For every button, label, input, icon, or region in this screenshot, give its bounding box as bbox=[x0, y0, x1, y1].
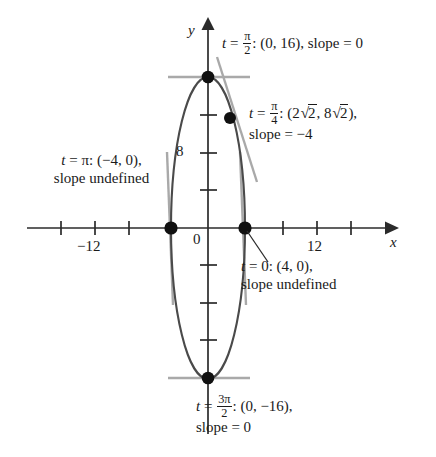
annotation-top-numerator: π bbox=[243, 30, 251, 44]
x-tick-label-minus-12: −12 bbox=[77, 238, 100, 255]
annotation-quarter-colon: : (2 bbox=[279, 105, 299, 121]
annotation-quarter-line2: slope = −4 bbox=[249, 126, 357, 144]
annotation-bottom-fraction: 3π 2 bbox=[217, 393, 231, 419]
annotation-top-tail: : (0, 16), slope = 0 bbox=[252, 35, 363, 51]
annotation-zero-rest: = 0: (4, 0), bbox=[249, 258, 313, 274]
annotation-bottom-equals: = bbox=[204, 398, 212, 414]
annotation-pi-line1: t = π: (−4, 0), bbox=[14, 152, 189, 170]
x-axis-arrowhead bbox=[385, 222, 399, 235]
annotation-top-equals: = bbox=[230, 35, 238, 51]
point-t-3pi-over-2 bbox=[202, 372, 215, 385]
annotation-bottom-line1: t = 3π 2 : (0, −16), bbox=[196, 393, 293, 419]
annotation-bottom-t: t bbox=[196, 398, 200, 414]
annotation-bottom-denominator: 2 bbox=[217, 407, 231, 420]
annotation-quarter-t: t bbox=[249, 105, 253, 121]
point-t-pi-over-4 bbox=[224, 112, 236, 124]
annotation-zero-t: t bbox=[241, 258, 245, 274]
annotation-bottom-line2: slope = 0 bbox=[196, 419, 293, 437]
annotation-pi-line2: slope undefined bbox=[14, 170, 189, 188]
point-t-pi-over-2 bbox=[202, 71, 215, 84]
annotation-bottom-numerator: 3π bbox=[217, 393, 231, 407]
annotation-pi-rest: = π: (−4, 0), bbox=[69, 152, 141, 168]
annotation-quarter-numerator: π bbox=[270, 100, 278, 114]
annotation-quarter-equals: = bbox=[257, 105, 265, 121]
annotation-top-fraction: π 2 bbox=[243, 30, 251, 56]
annotation-quarter-mid: , 8 bbox=[317, 105, 332, 121]
annotation-quarter-radicand-1: 2 bbox=[308, 104, 317, 121]
annotation-quarter-radicand-2: 2 bbox=[340, 104, 349, 121]
annotation-pi-t: t bbox=[61, 152, 65, 168]
annotation-zero-line1: t = 0: (4, 0), bbox=[241, 258, 336, 276]
annotation-top-t: t bbox=[222, 35, 226, 51]
annotation-quarter-denominator: 4 bbox=[270, 114, 278, 127]
annotation-quarter-radical-2: √2 bbox=[332, 104, 349, 123]
annotation-quarter-line1: t = π 4 : (2√2, 8√2), bbox=[249, 100, 357, 126]
annotation-t-pi: t = π: (−4, 0), slope undefined bbox=[14, 152, 189, 187]
annotation-quarter-radical-1: √2 bbox=[300, 104, 317, 123]
x-axis-label: x bbox=[390, 234, 397, 251]
y-axis-arrowhead bbox=[202, 17, 215, 30]
parametric-curve-figure: y x 0 8 −12 12 t = π 2 : (0, 16), slope … bbox=[0, 0, 436, 457]
annotation-t-pi-over-2: t = π 2 : (0, 16), slope = 0 bbox=[222, 30, 363, 56]
annotation-bottom-tail: : (0, −16), bbox=[233, 398, 293, 414]
annotation-quarter-fraction: π 4 bbox=[270, 100, 278, 126]
y-axis-label: y bbox=[188, 22, 195, 39]
origin-label: 0 bbox=[193, 231, 201, 248]
annotation-quarter-close: ), bbox=[348, 105, 357, 121]
plot-canvas bbox=[0, 0, 436, 457]
annotation-t-zero: t = 0: (4, 0), slope undefined bbox=[241, 258, 336, 293]
point-t-pi bbox=[164, 221, 177, 234]
point-t-zero bbox=[238, 221, 251, 234]
annotation-t-pi-over-4: t = π 4 : (2√2, 8√2), slope = −4 bbox=[249, 100, 357, 144]
annotation-t-3pi-over-2: t = 3π 2 : (0, −16), slope = 0 bbox=[196, 393, 293, 437]
annotation-zero-line2: slope undefined bbox=[241, 276, 336, 294]
x-tick-label-12: 12 bbox=[307, 238, 322, 255]
annotation-top-denominator: 2 bbox=[243, 44, 251, 57]
